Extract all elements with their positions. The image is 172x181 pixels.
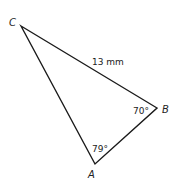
vertex-label-b: B (162, 104, 169, 115)
vertex-label-c: C (9, 17, 16, 28)
triangle-diagram: C B A 13 mm 70° 79° (0, 0, 172, 181)
triangle-abc (21, 26, 157, 164)
angle-b-label: 70° (133, 106, 149, 116)
side-length-cb: 13 mm (92, 57, 124, 67)
vertex-label-a: A (87, 169, 95, 180)
angle-a-label: 79° (92, 144, 108, 154)
